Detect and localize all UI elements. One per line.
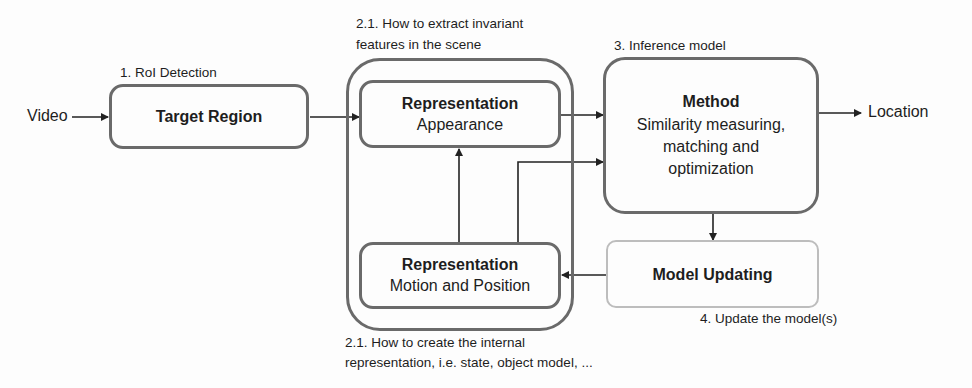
internal-representation-annotation-line1: 2.1. How to create the internal (345, 333, 525, 352)
model-updating-title: Model Updating (653, 264, 773, 285)
method-title: Method (683, 91, 740, 112)
representation-appearance-title: Representation (402, 93, 518, 114)
inference-model-annotation: 3. Inference model (614, 36, 726, 55)
method-subtitle-line3: optimization (668, 158, 753, 180)
representation-motion-title: Representation (402, 254, 518, 275)
extract-features-annotation-line1: 2.1. How to extract invariant (356, 14, 523, 33)
update-model-annotation: 4. Update the model(s) (700, 309, 837, 328)
location-label: Location (868, 103, 929, 121)
representation-motion-subtitle: Motion and Position (390, 275, 531, 297)
video-label: Video (27, 107, 68, 125)
method-subtitle-line1: Similarity measuring, (637, 114, 785, 136)
tracking-pipeline-diagram: Video 1. RoI Detection 2.1. How to extra… (0, 0, 972, 388)
model-updating-node: Model Updating (606, 240, 819, 308)
internal-representation-annotation-line2: representation, i.e. state, object model… (345, 353, 593, 372)
roi-detection-annotation: 1. RoI Detection (120, 63, 217, 82)
target-region-node: Target Region (109, 84, 309, 149)
target-region-title: Target Region (156, 106, 262, 127)
extract-features-annotation-line2: features in the scene (356, 35, 481, 54)
representation-motion-node: Representation Motion and Position (359, 242, 561, 309)
representation-appearance-subtitle: Appearance (417, 114, 503, 136)
method-subtitle-line2: matching and (663, 136, 759, 158)
method-node: Method Similarity measuring, matching an… (603, 57, 819, 214)
representation-appearance-node: Representation Appearance (359, 80, 561, 148)
